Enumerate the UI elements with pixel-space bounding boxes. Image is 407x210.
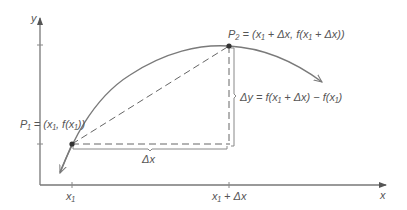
y-axis (37, 18, 43, 185)
delta-y-brace (231, 48, 236, 146)
x-axis (40, 182, 386, 188)
p2-label: P₂ = (x₁ + Δx, f(x₁ + Δx)) (228, 28, 345, 40)
secant-line (72, 46, 229, 144)
delta-y-label: Δy = f(x₁ + Δx) − f(x₁) (239, 91, 342, 103)
y-axis-label: y (30, 12, 38, 24)
delta-x-brace (73, 146, 227, 151)
point-p1 (69, 141, 74, 146)
point-p2 (226, 43, 231, 48)
x1-tick-label: x₁ (65, 190, 76, 202)
delta-x-label: Δx (141, 153, 155, 165)
function-curve (60, 46, 322, 172)
p1-label: P₁ = (x₁, f(x₁)) (20, 118, 85, 130)
x1-plus-dx-tick-label: x₁ + Δx (211, 190, 247, 202)
secant-diagram: y x x₁ x₁ + Δx P₁ = (x₁, f(x₁)) P₂ = (x₁… (0, 0, 407, 210)
x-axis-label: x (379, 189, 386, 201)
